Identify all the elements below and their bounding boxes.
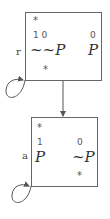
left-index: 1: [37, 137, 43, 147]
right-formula: P: [88, 41, 98, 59]
right-index: 0: [90, 30, 96, 40]
left-index: 1 0: [33, 30, 47, 40]
node-label-a: a: [22, 150, 28, 161]
top-marker: *: [33, 15, 38, 26]
right-formula: ~P: [72, 148, 95, 166]
node-a: * 1 0 P ~P *: [31, 117, 98, 187]
node-r: * 1 0 0 ~~P P *: [25, 12, 102, 81]
top-marker: *: [37, 122, 42, 133]
self-loop-a: [12, 185, 31, 203]
bottom-marker: *: [77, 170, 82, 181]
left-formula: ~~P: [30, 41, 65, 59]
bottom-marker: *: [43, 64, 48, 75]
left-formula: P: [35, 148, 45, 166]
self-loop-r: [6, 79, 25, 97]
right-index: 0: [77, 137, 83, 147]
node-label-r: r: [16, 46, 21, 57]
